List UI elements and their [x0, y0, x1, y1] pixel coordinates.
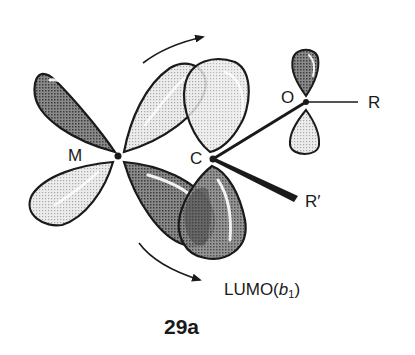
rotation-arrow-upper	[143, 37, 203, 63]
figure-number: 29a	[164, 316, 199, 337]
label-r: R	[368, 94, 380, 111]
orbital-drawing	[0, 0, 415, 355]
lumo-suffix: )	[294, 280, 300, 299]
oxygen-lobe-upper	[292, 50, 318, 96]
label-metal: M	[68, 147, 82, 164]
oxygen-lobe-lower	[290, 110, 319, 154]
lumo-symbol: b	[279, 280, 288, 299]
carbene-lobe-upper	[184, 59, 249, 152]
oxygen-nucleus	[303, 99, 309, 105]
carbon-nucleus	[210, 156, 217, 163]
lumo-prefix: LUMO(	[224, 280, 279, 299]
orbital-diagram: M C O R R′ LUMO(b1) 29a	[0, 0, 415, 355]
label-oxygen: O	[281, 89, 294, 106]
metal-lobe-lower-left	[30, 162, 113, 225]
label-lumo: LUMO(b1)	[224, 281, 300, 300]
label-carbon: C	[190, 150, 202, 167]
label-r-prime: R′	[305, 193, 320, 210]
metal-lobe-upper-left	[34, 74, 115, 152]
metal-nucleus	[115, 153, 122, 160]
